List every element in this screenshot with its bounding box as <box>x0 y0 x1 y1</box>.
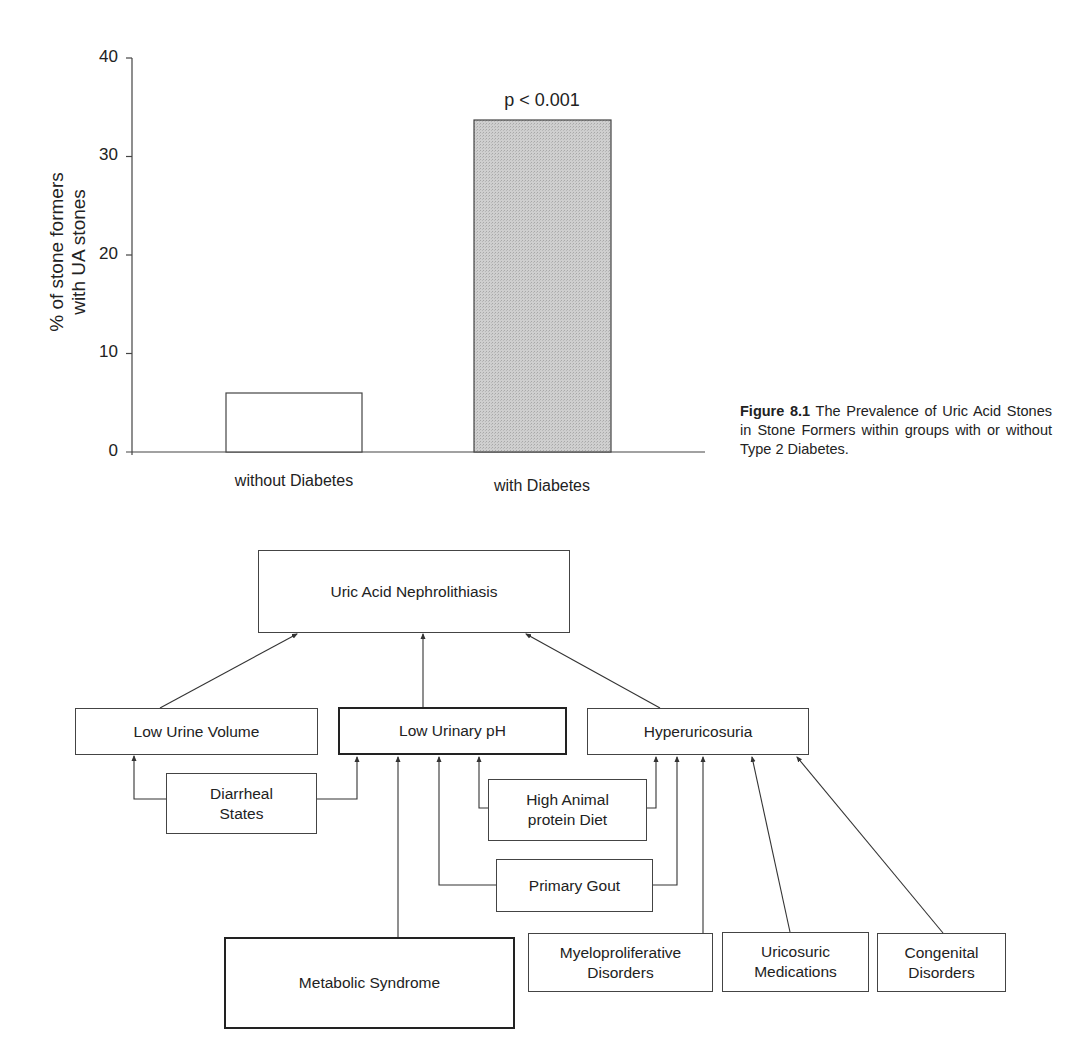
y-tick-0: 0 <box>78 441 118 461</box>
node-metabolic-syndrome: Metabolic Syndrome <box>224 937 515 1029</box>
bar-without-diabetes <box>226 393 362 452</box>
node-hyperuricosuria: Hyperuricosuria <box>587 708 809 755</box>
y-tick-40: 40 <box>78 47 118 67</box>
y-axis-label-line2: with UA stones <box>68 132 90 372</box>
node-low-urine-volume: Low Urine Volume <box>75 708 318 755</box>
node-primary-gout: Primary Gout <box>496 859 653 912</box>
y-axis-label: % of stone formers with UA stones <box>46 132 90 372</box>
node-myeloproliferative-disorders: Myeloproliferative Disorders <box>528 933 713 992</box>
node-high-animal-protein-diet: High Animal protein Diet <box>488 779 647 841</box>
node-diarrheal-states: Diarrheal States <box>166 773 317 834</box>
node-congenital-disorders: Congenital Disorders <box>877 933 1006 992</box>
figure-caption: Figure 8.1 The Prevalence of Uric Acid S… <box>740 402 1052 459</box>
bar-with-diabetes <box>474 120 611 452</box>
x-category-without-diabetes: without Diabetes <box>194 472 394 490</box>
p-value-annotation: p < 0.001 <box>462 90 622 111</box>
x-category-with-diabetes: with Diabetes <box>442 477 642 495</box>
node-uricosuric-medications: Uricosuric Medications <box>722 932 869 992</box>
node-low-urinary-ph: Low Urinary pH <box>338 707 567 755</box>
figure-caption-label: Figure 8.1 <box>740 403 810 419</box>
node-uric-acid-nephrolithiasis: Uric Acid Nephrolithiasis <box>258 550 570 633</box>
y-axis-label-line1: % of stone formers <box>46 132 68 372</box>
